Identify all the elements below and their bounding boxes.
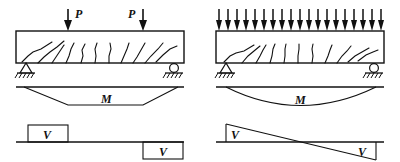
distributed-load-arrow [243, 9, 249, 31]
crack-pattern [224, 44, 378, 63]
distributed-load-arrow [360, 9, 366, 31]
distributed-load-arrow [297, 9, 303, 31]
figure-root: P P [0, 0, 400, 162]
distributed-load-arrow [270, 9, 276, 31]
pin-support [215, 63, 235, 78]
moment-label: M [100, 92, 112, 106]
distributed-load-arrow [234, 9, 240, 31]
point-load-arrow-2 [139, 9, 147, 31]
distributed-load-arrow [288, 9, 294, 31]
shear-label-left: V [231, 128, 240, 142]
point-load-label-2: P [128, 7, 136, 21]
point-load-arrow-1 [64, 9, 72, 31]
distributed-load-arrow [333, 9, 339, 31]
distributed-load-arrow [342, 9, 348, 31]
crack-pattern [22, 41, 177, 63]
beam-outline [16, 31, 184, 63]
shear-label-right: V [358, 145, 367, 159]
distributed-load-arrow [351, 9, 357, 31]
distributed-load-arrow [216, 9, 222, 31]
panel-left-canvas: P P [0, 0, 200, 162]
distributed-load-arrow [369, 9, 375, 31]
panel-right-canvas: M V V [200, 0, 400, 162]
shear-label-right: V [159, 145, 168, 159]
distributed-load-arrow [324, 9, 330, 31]
moment-label: M [294, 93, 306, 107]
roller-support [163, 64, 183, 78]
pin-support [15, 63, 35, 78]
distributed-load-arrow [378, 9, 384, 31]
distributed-load-arrow [279, 9, 285, 31]
point-load-label-1: P [75, 7, 83, 21]
distributed-load-arrow [315, 9, 321, 31]
shear-label-left: V [43, 128, 52, 142]
moment-diagram [16, 87, 184, 105]
distributed-load-arrow-group [216, 9, 384, 31]
distributed-load-arrow [225, 9, 231, 31]
roller-support [363, 64, 383, 78]
distributed-load-arrow [261, 9, 267, 31]
distributed-load-arrow [306, 9, 312, 31]
distributed-load-arrow [252, 9, 258, 31]
beam-outline [216, 31, 384, 63]
panel-distributed-load: M V V [200, 0, 400, 162]
panel-two-point-loads: P P [0, 0, 200, 162]
